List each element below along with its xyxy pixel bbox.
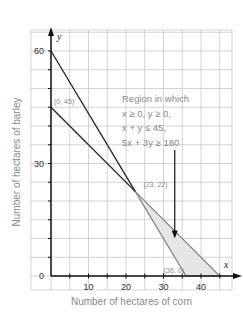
annotation-line: Region in which — [122, 93, 189, 104]
point-label: (0, 45) — [54, 98, 74, 106]
point-label: (23, 22) — [143, 181, 167, 189]
x-axis-variable: x — [223, 259, 229, 270]
y-axis-arrowhead — [48, 27, 54, 36]
x-tick-label: 10 — [83, 282, 93, 292]
chart: 1020304003060 (0, 45)(23, 22)(36, 0) Reg… — [0, 0, 243, 317]
constraint-line-1-lower — [135, 192, 219, 276]
x-axis-title: Number of hectares of corn — [71, 296, 192, 307]
annotation-line: x ≥ 0, y ≥ 0, — [122, 108, 171, 119]
y-tick-label: 60 — [34, 46, 44, 56]
y-tick-label: 30 — [34, 159, 44, 169]
x-axis-arrowhead — [233, 273, 242, 279]
y-axis-variable: y — [56, 31, 62, 42]
x-tick-label: 40 — [196, 282, 206, 292]
x-tick-label: 20 — [121, 282, 131, 292]
x-tick-label: 30 — [158, 282, 168, 292]
point-label: (36, 0) — [164, 267, 184, 275]
constraint-line-2-lower — [135, 192, 186, 276]
constraint-line-1 — [51, 107, 135, 191]
annotation-line: x + y ≤ 45, — [122, 122, 166, 133]
y-axis-title: Number of hectares of barley — [11, 98, 22, 227]
annotation-line: 5x + 3y ≥ 180 — [122, 137, 179, 148]
y-tick-label: 0 — [39, 271, 44, 281]
